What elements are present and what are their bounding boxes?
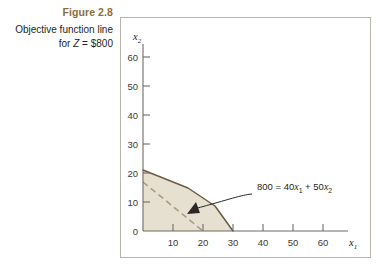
y-axis-label-subscript: 2 [138, 37, 142, 45]
objective-function-chart: 800 = 40x1 + 50x2 60 50 40 30 20 10 0 10… [121, 18, 370, 257]
x-axis-label-subscript: 1 [354, 243, 358, 251]
annotation-part-pre: 800 = 40 [257, 181, 294, 192]
y-tick-label-10: 10 [127, 197, 138, 208]
y-tick-label-50: 50 [127, 81, 138, 92]
figure-caption-block: Figure 2.8 Objective function line for Z… [0, 6, 113, 50]
annotation-part-mid: + 50 [302, 181, 323, 192]
x-tick-label-20: 20 [198, 237, 209, 248]
x-axis-label: x1 [348, 237, 357, 251]
caption-line-1: Objective function line [15, 24, 113, 35]
x-tick-label-10: 10 [168, 237, 179, 248]
annotation-sub-2: 2 [328, 187, 332, 194]
objective-equation-annotation: 800 = 40x1 + 50x2 [257, 181, 332, 194]
y-tick-label-30: 30 [127, 139, 138, 150]
figure-number: Figure 2.8 [0, 6, 113, 19]
caption-line-2-suffix: = $800 [79, 38, 113, 49]
y-tick-label-20: 20 [127, 168, 138, 179]
origin-label: 0 [133, 226, 138, 237]
y-tick-label-60: 60 [127, 52, 138, 63]
x-tick-label-30: 30 [228, 237, 239, 248]
feasible-region-fill [143, 170, 233, 231]
x-tick-label-40: 40 [258, 237, 269, 248]
x-tick-label-60: 60 [318, 237, 329, 248]
y-axis-label: x2 [132, 31, 142, 45]
x-tick-label-50: 50 [288, 237, 299, 248]
chart-panel: 800 = 40x1 + 50x2 60 50 40 30 20 10 0 10… [120, 17, 371, 258]
caption-line-2-prefix: for [59, 38, 73, 49]
y-tick-label-40: 40 [127, 110, 138, 121]
figure-caption-text: Objective function line for Z = $800 [0, 23, 113, 50]
